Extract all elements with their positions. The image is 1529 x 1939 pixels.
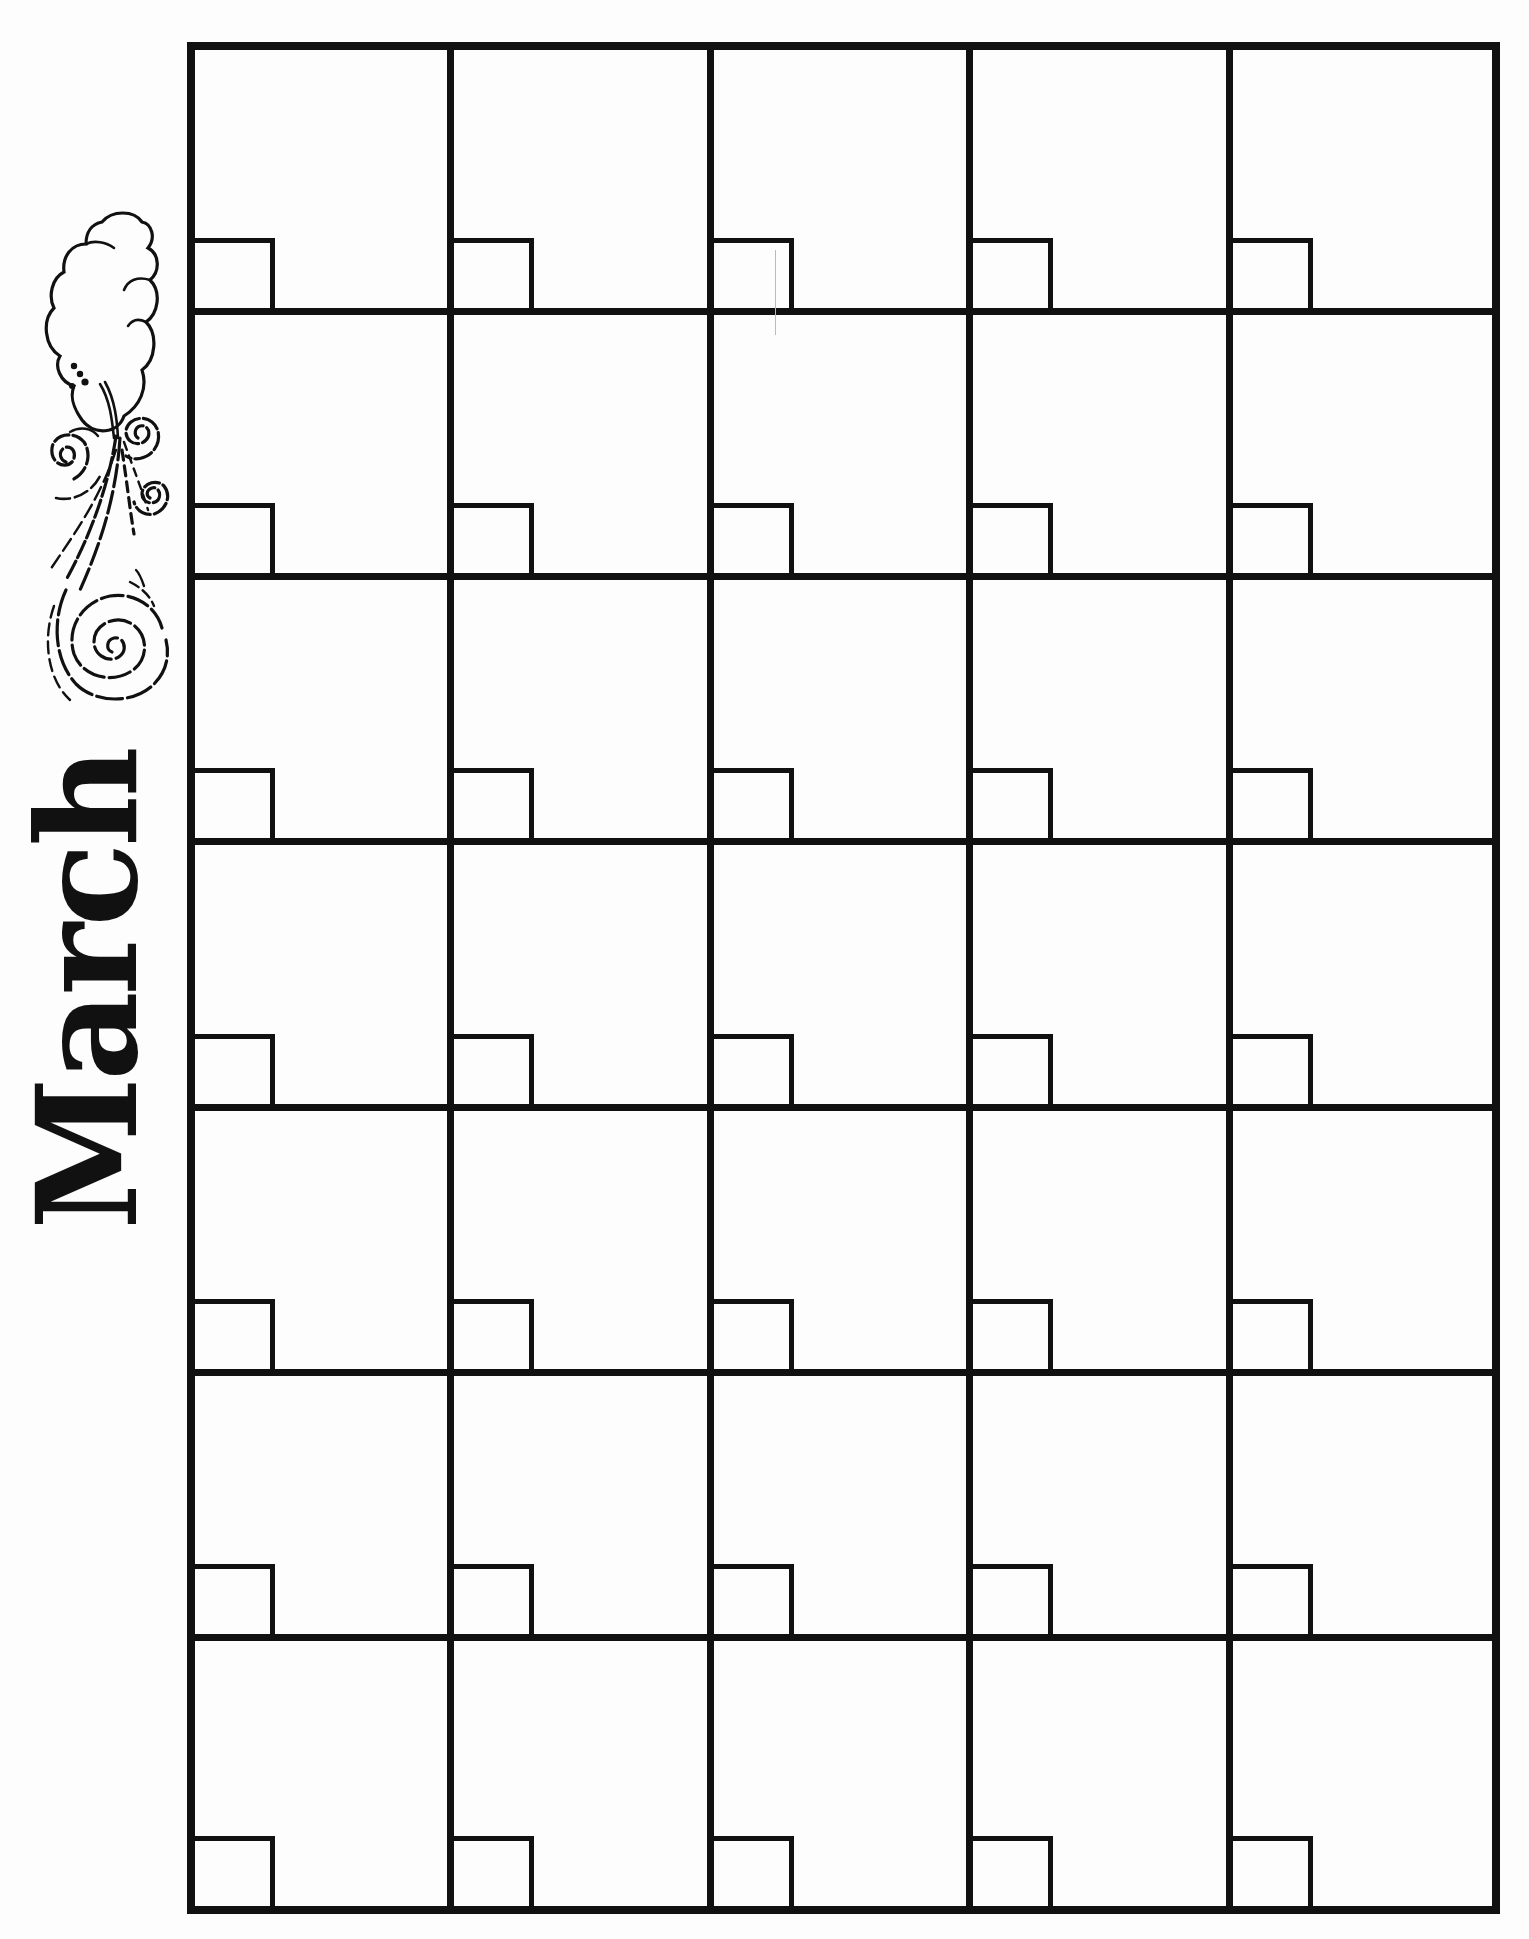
day-cell[interactable] — [195, 845, 454, 1110]
date-number-box[interactable] — [195, 1034, 275, 1104]
day-cell[interactable] — [973, 50, 1232, 315]
date-number-box[interactable] — [973, 1836, 1053, 1906]
scan-artifact-line — [775, 250, 776, 335]
day-cell[interactable] — [714, 1376, 973, 1641]
date-number-box[interactable] — [714, 1034, 794, 1104]
month-title: March — [19, 750, 157, 1229]
date-number-box[interactable] — [454, 1299, 534, 1369]
date-number-box[interactable] — [714, 503, 794, 573]
date-number-box[interactable] — [454, 1836, 534, 1906]
date-number-box[interactable] — [454, 503, 534, 573]
date-number-box[interactable] — [454, 238, 534, 308]
day-cell[interactable] — [454, 1376, 713, 1641]
date-number-box[interactable] — [454, 768, 534, 838]
date-number-box[interactable] — [195, 768, 275, 838]
day-cell[interactable] — [714, 315, 973, 580]
date-number-box[interactable] — [1233, 1836, 1313, 1906]
date-number-box[interactable] — [714, 1299, 794, 1369]
month-title-container: March — [28, 760, 148, 1220]
day-cell[interactable] — [1233, 1111, 1492, 1376]
date-number-box[interactable] — [973, 1034, 1053, 1104]
date-number-box[interactable] — [973, 1564, 1053, 1634]
date-number-box[interactable] — [1233, 768, 1313, 838]
day-cell[interactable] — [195, 1111, 454, 1376]
day-cell[interactable] — [195, 50, 454, 315]
date-number-box[interactable] — [454, 1034, 534, 1104]
day-cell[interactable] — [973, 1376, 1232, 1641]
date-number-box[interactable] — [1233, 1299, 1313, 1369]
date-number-box[interactable] — [714, 1564, 794, 1634]
date-number-box[interactable] — [714, 238, 794, 308]
day-cell[interactable] — [714, 50, 973, 315]
day-cell[interactable] — [973, 315, 1232, 580]
day-cell[interactable] — [714, 1641, 973, 1906]
date-number-box[interactable] — [714, 1836, 794, 1906]
day-cell[interactable] — [1233, 1376, 1492, 1641]
day-cell[interactable] — [973, 845, 1232, 1110]
date-number-box[interactable] — [195, 1836, 275, 1906]
day-cell[interactable] — [714, 845, 973, 1110]
day-cell[interactable] — [973, 580, 1232, 845]
day-cell[interactable] — [973, 1111, 1232, 1376]
date-number-box[interactable] — [195, 238, 275, 308]
day-cell[interactable] — [454, 1641, 713, 1906]
date-number-box[interactable] — [1233, 1034, 1313, 1104]
day-cell[interactable] — [454, 845, 713, 1110]
date-number-box[interactable] — [1233, 1564, 1313, 1634]
day-cell[interactable] — [714, 580, 973, 845]
day-cell[interactable] — [454, 50, 713, 315]
date-number-box[interactable] — [973, 1299, 1053, 1369]
date-number-box[interactable] — [973, 238, 1053, 308]
day-cell[interactable] — [1233, 1641, 1492, 1906]
day-cell[interactable] — [454, 315, 713, 580]
date-number-box[interactable] — [454, 1564, 534, 1634]
calendar-grid — [187, 42, 1500, 1914]
day-cell[interactable] — [1233, 50, 1492, 315]
day-cell[interactable] — [973, 1641, 1232, 1906]
day-cell[interactable] — [195, 1376, 454, 1641]
day-cell[interactable] — [454, 1111, 713, 1376]
day-cell[interactable] — [1233, 845, 1492, 1110]
calendar-page: March — [0, 0, 1529, 1939]
day-cell[interactable] — [714, 1111, 973, 1376]
date-number-box[interactable] — [195, 503, 275, 573]
day-cell[interactable] — [1233, 315, 1492, 580]
date-number-box[interactable] — [973, 768, 1053, 838]
date-number-box[interactable] — [973, 503, 1053, 573]
day-cell[interactable] — [1233, 580, 1492, 845]
day-cell[interactable] — [195, 315, 454, 580]
date-number-box[interactable] — [195, 1564, 275, 1634]
day-cell[interactable] — [195, 1641, 454, 1906]
date-number-box[interactable] — [714, 768, 794, 838]
wind-cloud-icon — [30, 210, 180, 720]
day-cell[interactable] — [195, 580, 454, 845]
date-number-box[interactable] — [1233, 238, 1313, 308]
date-number-box[interactable] — [1233, 503, 1313, 573]
day-cell[interactable] — [454, 580, 713, 845]
date-number-box[interactable] — [195, 1299, 275, 1369]
